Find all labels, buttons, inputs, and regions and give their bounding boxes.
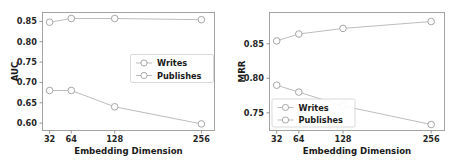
mrr-legend-marker-publishes: [282, 117, 288, 123]
auc-xtick-label: 128: [106, 134, 123, 144]
auc-series-writes: [46, 87, 204, 127]
auc-ytick-label: 0.80: [17, 37, 38, 47]
mrr-series-publishes: [273, 18, 434, 44]
auc-xtick-label: 32: [44, 134, 55, 144]
mrr-legend-marker-writes: [282, 104, 288, 110]
mrr-xaxis-title: Embedding Dimension: [303, 146, 411, 156]
mrr-panel: 0.85 0.80 0.75 32 64 128 256 Embedding D…: [230, 0, 460, 161]
auc-writes-line: [50, 91, 202, 124]
mrr-legend[interactable]: Writes Publishes: [272, 99, 355, 127]
mrr-yaxis-title: MRR: [237, 60, 247, 82]
auc-yaxis-title: AUC: [10, 62, 20, 82]
auc-writes-marker: [46, 87, 53, 94]
auc-ytick-label: 0.60: [17, 118, 38, 128]
auc-publishes-marker: [68, 15, 75, 22]
auc-ytick-label: 0.65: [17, 98, 38, 108]
auc-xaxis-title: Embedding Dimension: [74, 146, 182, 156]
mrr-writes-marker: [273, 82, 280, 89]
auc-legend-marker-publishes: [141, 72, 147, 78]
mrr-writes-marker: [296, 89, 303, 96]
auc-legend-marker-writes: [141, 60, 147, 66]
auc-publishes-marker: [46, 19, 53, 26]
mrr-legend-label-publishes: Publishes: [299, 115, 344, 125]
mrr-xtick-label: 32: [271, 134, 282, 144]
mrr-legend-item-writes[interactable]: Writes: [278, 103, 329, 113]
mrr-legend-label-writes: Writes: [299, 103, 329, 113]
mrr-xtick-label: 256: [423, 134, 440, 144]
mrr-publishes-marker: [296, 31, 303, 38]
auc-writes-marker: [198, 121, 205, 128]
auc-panel: 0.85 0.80 0.75 0.70 0.65 0.60 32 64 128 …: [0, 0, 230, 161]
auc-legend-label-publishes: Publishes: [157, 71, 202, 81]
mrr-publishes-marker: [340, 25, 347, 32]
auc-publishes-marker: [111, 15, 118, 22]
mrr-publishes-marker: [273, 38, 280, 45]
mrr-ytick-label: 0.85: [244, 39, 265, 49]
auc-legend-label-writes: Writes: [157, 58, 187, 68]
mrr-plot-svg: 0.85 0.80 0.75 32 64 128 256 Embedding D…: [230, 0, 460, 161]
auc-xtick-label: 64: [66, 134, 78, 144]
auc-publishes-marker: [198, 16, 205, 23]
auc-xtick-label: 256: [193, 134, 210, 144]
mrr-ytick-label: 0.75: [244, 108, 265, 118]
auc-plot-svg: 0.85 0.80 0.75 0.70 0.65 0.60 32 64 128 …: [0, 0, 230, 161]
auc-legend[interactable]: Writes Publishes: [131, 55, 214, 83]
auc-ytick-label: 0.85: [17, 16, 38, 26]
auc-writes-marker: [68, 87, 75, 94]
mrr-publishes-marker: [428, 18, 435, 25]
auc-series-publishes: [46, 15, 204, 25]
mrr-writes-marker: [428, 121, 435, 128]
mrr-xtick-label: 128: [334, 134, 351, 144]
auc-writes-marker: [111, 104, 118, 111]
auc-legend-item-writes[interactable]: Writes: [136, 58, 187, 68]
mrr-xtick-label: 64: [293, 134, 305, 144]
figure-root: 0.85 0.80 0.75 0.70 0.65 0.60 32 64 128 …: [0, 0, 460, 161]
mrr-y-ticks: [267, 44, 270, 113]
